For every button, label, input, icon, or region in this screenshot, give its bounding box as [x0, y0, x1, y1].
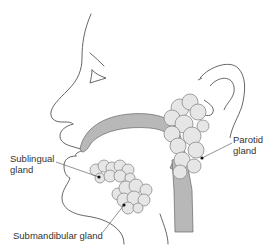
salivary-gland-diagram: Sublingual gland Parotid gland Submandib… — [0, 0, 274, 251]
parotid-label-line1: Parotid — [233, 134, 263, 145]
submandibular-gland — [112, 179, 152, 214]
sublingual-label-line2: gland — [10, 164, 54, 175]
sublingual-label: Sublingual gland — [10, 153, 54, 175]
sublingual-gland — [90, 160, 135, 183]
parotid-label: Parotid gland — [233, 134, 263, 156]
parotid-label-line2: gland — [233, 145, 263, 156]
sublingual-label-line1: Sublingual — [10, 153, 54, 164]
submandibular-label: Submandibular gland — [13, 230, 103, 241]
